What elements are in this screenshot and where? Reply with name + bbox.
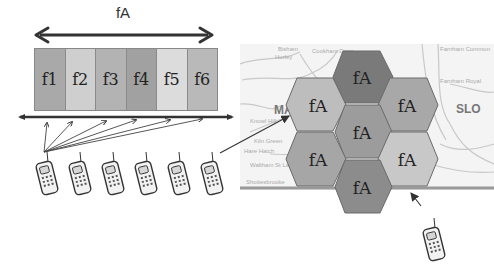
mobile-phone-icon [200, 152, 223, 195]
mobile-phones [0, 0, 494, 279]
mobile-phone-icon [167, 152, 190, 195]
mobile-phone-icon [422, 218, 445, 261]
mobile-phone-icon [35, 152, 58, 195]
mobile-phone-icon [101, 152, 124, 195]
mobile-phone-icon [134, 152, 157, 195]
mobile-phone-icon [68, 152, 91, 195]
